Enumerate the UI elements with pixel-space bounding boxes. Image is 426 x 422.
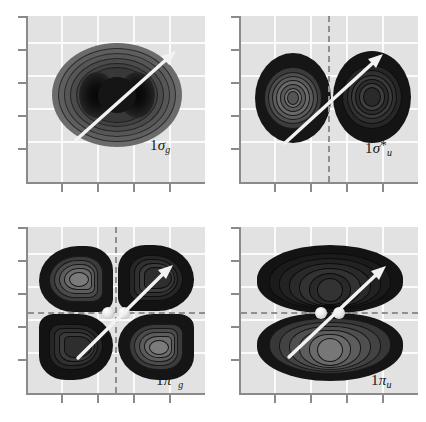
y-axis-spine bbox=[239, 227, 241, 395]
y-axis-tick bbox=[18, 16, 26, 18]
y-axis-tick bbox=[231, 148, 239, 150]
orbital-lobe-negative bbox=[39, 314, 113, 380]
y-axis-tick bbox=[18, 326, 26, 328]
orbital-label-subscript: u bbox=[387, 147, 392, 158]
x-axis-tick bbox=[61, 395, 63, 403]
orbital-lobe-negative bbox=[333, 51, 411, 143]
x-axis-tick bbox=[169, 395, 171, 403]
y-axis-tick bbox=[231, 260, 239, 262]
x-axis-tick bbox=[97, 184, 99, 192]
orbital-label: 1π*g bbox=[156, 369, 183, 390]
x-axis-tick bbox=[274, 395, 276, 403]
y-axis-tick bbox=[231, 82, 239, 84]
orbital-lobe-negative bbox=[118, 245, 194, 311]
y-axis-tick bbox=[231, 359, 239, 361]
panel-sigma-g: 1σg bbox=[0, 0, 213, 211]
nodal-plane-vertical bbox=[115, 227, 117, 393]
x-axis-tick bbox=[382, 184, 384, 192]
y-axis-tick bbox=[18, 227, 26, 229]
orbital-label-subscript: u bbox=[386, 379, 391, 390]
nodal-plane-horizontal bbox=[28, 312, 205, 314]
x-axis-spine bbox=[26, 393, 205, 395]
x-axis-tick bbox=[61, 184, 63, 192]
orbital-label-number: 1 bbox=[156, 372, 164, 388]
x-axis-tick bbox=[133, 395, 135, 403]
x-axis-spine bbox=[239, 393, 418, 395]
panel-pi-u: 1πu bbox=[213, 211, 426, 422]
x-axis-spine bbox=[239, 182, 418, 184]
y-axis-spine bbox=[26, 227, 28, 395]
y-axis-tick bbox=[231, 49, 239, 51]
x-axis-tick bbox=[310, 184, 312, 192]
orbital-label: 1πu bbox=[371, 369, 392, 390]
orbital-label: 1σ*u bbox=[365, 137, 392, 158]
nodal-plane-vertical bbox=[328, 16, 330, 182]
y-axis-tick bbox=[18, 115, 26, 117]
x-axis-tick bbox=[310, 395, 312, 403]
nodal-plane-horizontal bbox=[241, 312, 418, 314]
orbital-lobe-positive bbox=[255, 53, 331, 143]
y-axis-tick bbox=[18, 148, 26, 150]
x-axis-tick bbox=[346, 184, 348, 192]
y-axis-tick bbox=[18, 82, 26, 84]
y-axis-tick bbox=[231, 326, 239, 328]
orbital-label-number: 1 bbox=[365, 140, 373, 156]
nucleus-marker bbox=[102, 307, 114, 319]
x-axis-tick bbox=[97, 395, 99, 403]
y-axis-tick bbox=[18, 293, 26, 295]
x-axis-tick bbox=[133, 184, 135, 192]
y-axis-tick bbox=[231, 227, 239, 229]
x-axis-tick bbox=[169, 184, 171, 192]
orbital-label-number: 1 bbox=[150, 137, 158, 153]
x-axis-tick bbox=[346, 395, 348, 403]
orbital-lobe-positive bbox=[52, 43, 182, 147]
plot-area bbox=[28, 16, 205, 182]
orbital-label-subscript: g bbox=[165, 144, 170, 155]
orbital-label-star: * bbox=[380, 137, 387, 152]
x-axis-spine bbox=[26, 182, 205, 184]
y-axis-tick bbox=[18, 260, 26, 262]
nucleus-marker bbox=[315, 307, 327, 319]
orbital-label-number: 1 bbox=[371, 372, 379, 388]
molecular-orbital-figure: 1σg bbox=[0, 0, 426, 422]
nucleus-marker bbox=[333, 307, 345, 319]
nucleus-marker bbox=[118, 307, 130, 319]
y-axis-tick bbox=[18, 49, 26, 51]
panel-pi-g-star: 1π*g bbox=[0, 211, 213, 422]
panel-sigma-u-star: 1σ*u bbox=[213, 0, 426, 211]
orbital-label-subscript: g bbox=[178, 379, 183, 390]
y-axis-spine bbox=[26, 16, 28, 184]
orbital-lobe-negative bbox=[257, 245, 403, 313]
y-axis-tick bbox=[231, 115, 239, 117]
y-axis-tick bbox=[231, 293, 239, 295]
y-axis-tick bbox=[231, 16, 239, 18]
orbital-lobe-positive bbox=[39, 246, 113, 312]
orbital-label: 1σg bbox=[150, 134, 171, 155]
x-axis-tick bbox=[382, 395, 384, 403]
x-axis-tick bbox=[274, 184, 276, 192]
y-axis-tick bbox=[18, 359, 26, 361]
y-axis-spine bbox=[239, 16, 241, 184]
